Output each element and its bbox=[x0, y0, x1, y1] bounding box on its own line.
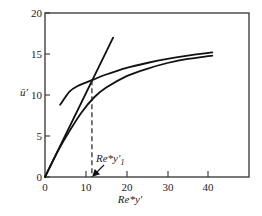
annotation-arrow bbox=[93, 165, 104, 176]
y-ticks bbox=[45, 13, 50, 177]
y-tick-label: 10 bbox=[31, 89, 43, 101]
y-tick-label: 5 bbox=[37, 130, 43, 142]
chart: 0 5 10 15 20 0 10 20 30 40 ū′ Re*y′ Re*y… bbox=[0, 0, 262, 216]
x-ticks bbox=[86, 171, 208, 177]
x-tick-label: 20 bbox=[122, 181, 134, 193]
y-axis-label: ū′ bbox=[20, 86, 29, 98]
x-tick-label: 40 bbox=[203, 181, 215, 193]
x-tick-label: 30 bbox=[163, 181, 175, 193]
annotation-label: Re*y′1 bbox=[95, 152, 124, 167]
y-tick-label: 15 bbox=[31, 48, 43, 60]
series-upper-curve bbox=[60, 52, 212, 104]
x-tick-label: 10 bbox=[81, 181, 93, 193]
x-tick-label: 0 bbox=[42, 181, 48, 193]
plot-frame bbox=[45, 13, 249, 177]
y-tick-label: 20 bbox=[31, 7, 43, 19]
x-tick-labels: 0 10 20 30 40 bbox=[42, 181, 214, 193]
y-tick-labels: 0 5 10 15 20 bbox=[31, 7, 43, 183]
series-lower-curve bbox=[45, 56, 212, 177]
x-axis-label: Re*y′ bbox=[117, 193, 143, 205]
